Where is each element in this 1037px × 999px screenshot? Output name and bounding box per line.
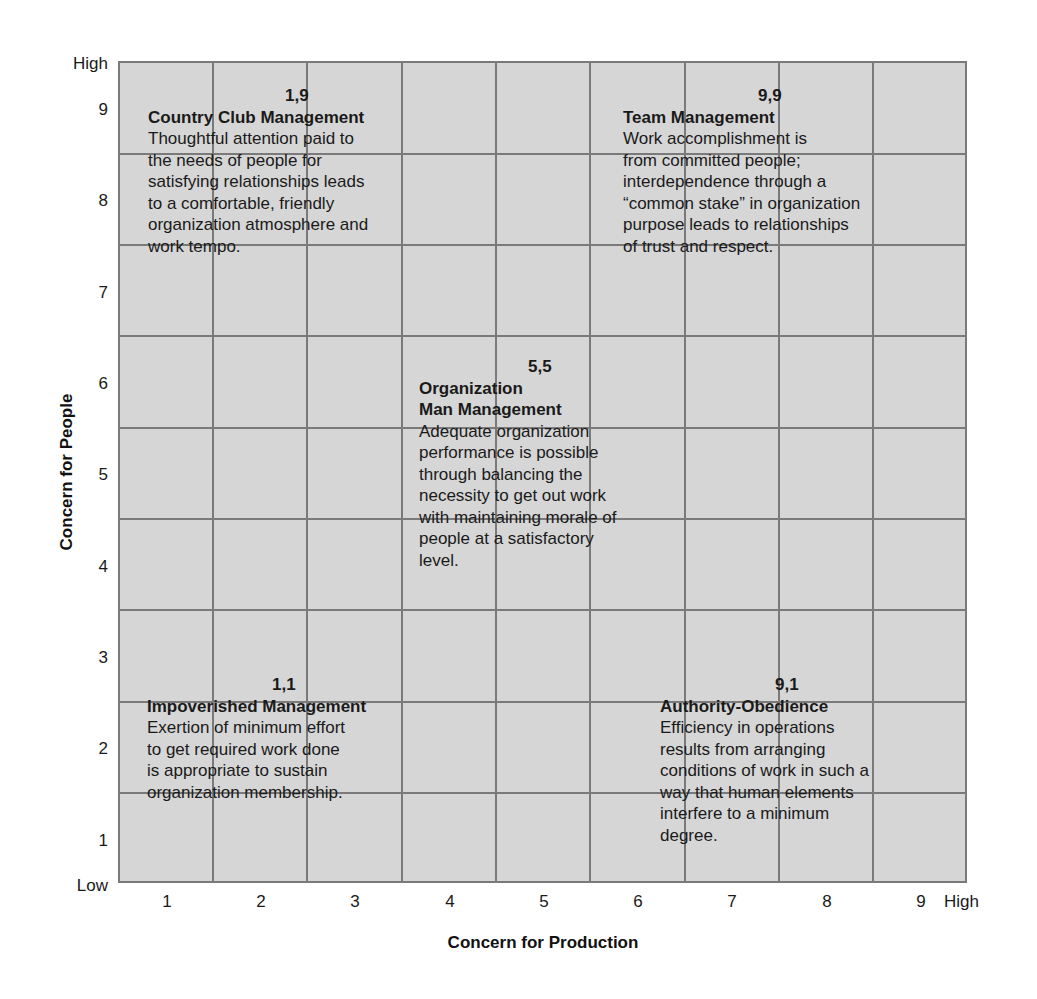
grid-line (120, 335, 965, 337)
style-authority-obedience: 9,1 Authority-Obedience Efficiency in op… (660, 674, 950, 846)
style-coordinate: 5,5 (528, 356, 709, 378)
x-tick: 9 (906, 892, 936, 912)
y-tick: 8 (78, 191, 108, 211)
style-title: Country Club Management (148, 107, 448, 129)
x-tick: 3 (340, 892, 370, 912)
style-coordinate: 9,9 (758, 85, 933, 107)
x-tick: 7 (717, 892, 747, 912)
style-title: Organization Man Management (419, 378, 709, 421)
style-description: Adequate organization performance is pos… (419, 421, 709, 572)
x-tick: 5 (529, 892, 559, 912)
style-title: Authority-Obedience (660, 696, 950, 718)
style-title: Team Management (623, 107, 933, 129)
style-coordinate: 1,9 (285, 85, 448, 107)
style-coordinate: 1,1 (272, 674, 447, 696)
grid-line (120, 609, 965, 611)
style-title: Impoverished Management (147, 696, 447, 718)
style-impoverished: 1,1 Impoverished Management Exertion of … (147, 674, 447, 803)
y-tick: 7 (78, 283, 108, 303)
y-axis-low-label: Low (60, 876, 108, 896)
x-axis-high-label: High (944, 892, 979, 912)
x-tick: 4 (435, 892, 465, 912)
style-team: 9,9 Team Management Work accomplishment … (623, 85, 933, 257)
y-tick: 3 (78, 648, 108, 668)
x-tick: 8 (812, 892, 842, 912)
style-organization-man: 5,5 Organization Man Management Adequate… (419, 356, 709, 571)
y-axis-title: Concern for People (57, 394, 77, 551)
x-axis-title: Concern for Production (448, 933, 639, 953)
style-country-club: 1,9 Country Club Management Thoughtful a… (148, 85, 448, 257)
y-tick: 1 (78, 831, 108, 851)
y-tick: 6 (78, 374, 108, 394)
style-coordinate: 9,1 (775, 674, 950, 696)
y-tick: 9 (78, 100, 108, 120)
y-tick: 4 (78, 557, 108, 577)
y-tick: 2 (78, 739, 108, 759)
style-description: Thoughtful attention paid to the needs o… (148, 128, 448, 257)
x-tick: 6 (623, 892, 653, 912)
style-description: Exertion of minimum effort to get requir… (147, 717, 447, 803)
y-axis-high-label: High (60, 54, 108, 74)
style-description: Efficiency in operations results from ar… (660, 717, 950, 846)
x-tick: 2 (246, 892, 276, 912)
style-description: Work accomplishment is from committed pe… (623, 128, 933, 257)
x-tick: 1 (152, 892, 182, 912)
y-tick: 5 (78, 465, 108, 485)
